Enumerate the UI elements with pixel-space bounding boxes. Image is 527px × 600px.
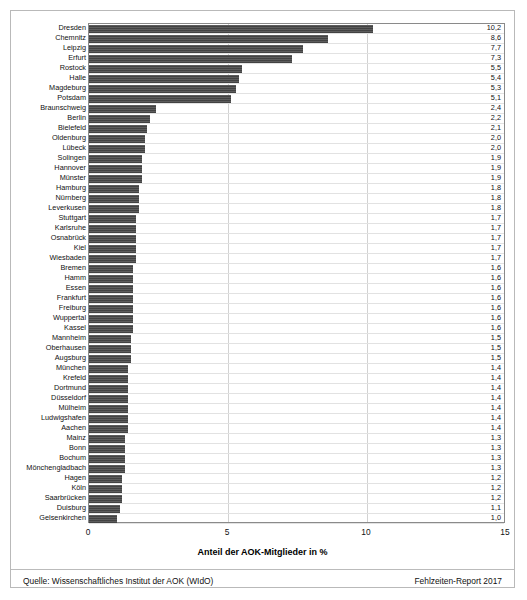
category-label: Kiel bbox=[74, 243, 86, 253]
value-label: 1,6 bbox=[491, 273, 501, 283]
category-label: Bochum bbox=[59, 453, 86, 463]
category-label: Düsseldorf bbox=[51, 393, 86, 403]
category-label: Chemnitz bbox=[55, 33, 86, 43]
bar-row: Augsburg1,5 bbox=[89, 354, 504, 364]
value-label: 1,6 bbox=[491, 323, 501, 333]
bar-row: Stuttgart1,7 bbox=[89, 214, 504, 224]
bar-row: Dresden10,2 bbox=[89, 24, 504, 34]
bar bbox=[89, 235, 136, 242]
bar bbox=[89, 305, 133, 312]
bar bbox=[89, 155, 142, 162]
bar bbox=[89, 515, 117, 522]
bar-rows: Dresden10,2Chemnitz8,6Leipzig7,7Erfurt7,… bbox=[89, 24, 504, 522]
bar bbox=[89, 45, 303, 52]
category-label: Braunschweig bbox=[40, 103, 86, 113]
value-label: 2,0 bbox=[491, 143, 501, 153]
bar-row: Oberhausen1,5 bbox=[89, 344, 504, 354]
bar-row: Köln1,2 bbox=[89, 484, 504, 494]
category-label: Oberhausen bbox=[46, 343, 86, 353]
bar bbox=[89, 215, 136, 222]
category-label: Solingen bbox=[58, 153, 86, 163]
category-label: Ludwigshafen bbox=[41, 413, 86, 423]
category-label: Frankfurt bbox=[57, 293, 86, 303]
bar-row: Karlsruhe1,7 bbox=[89, 224, 504, 234]
value-label: 8,6 bbox=[491, 33, 501, 43]
value-label: 10,2 bbox=[487, 23, 501, 33]
bar bbox=[89, 375, 128, 382]
value-label: 1,7 bbox=[491, 253, 501, 263]
category-label: Bonn bbox=[69, 443, 86, 453]
category-label: Gelsenkirchen bbox=[39, 513, 86, 523]
category-label: Oldenburg bbox=[52, 133, 86, 143]
bar bbox=[89, 315, 133, 322]
bar bbox=[89, 405, 128, 412]
category-label: Potsdam bbox=[57, 93, 86, 103]
bar bbox=[89, 415, 128, 422]
category-label: Magdeburg bbox=[49, 83, 86, 93]
bar-row: Aachen1,4 bbox=[89, 424, 504, 434]
category-label: Krefeld bbox=[63, 373, 86, 383]
category-label: Karlsruhe bbox=[55, 223, 86, 233]
bar bbox=[89, 295, 133, 302]
bar-row: Bonn1,3 bbox=[89, 444, 504, 454]
x-tick-label: 15 bbox=[500, 527, 509, 537]
bar-row: Hamm1,6 bbox=[89, 274, 504, 284]
bar-row: Saarbrücken1,2 bbox=[89, 494, 504, 504]
bar-row: Mönchengladbach1,3 bbox=[89, 464, 504, 474]
bar bbox=[89, 395, 128, 402]
value-label: 5,1 bbox=[491, 93, 501, 103]
x-axis: 051015 bbox=[88, 523, 505, 545]
source-note: Quelle: Wissenschaftliches Institut der … bbox=[23, 576, 213, 586]
bar bbox=[89, 485, 122, 492]
value-label: 1,4 bbox=[491, 393, 501, 403]
x-tick-label: 5 bbox=[225, 527, 230, 537]
value-label: 1,5 bbox=[491, 353, 501, 363]
bar bbox=[89, 85, 236, 92]
category-label: Bremen bbox=[60, 263, 86, 273]
bar-row: Freiburg1,6 bbox=[89, 304, 504, 314]
category-label: Mülheim bbox=[58, 403, 86, 413]
value-label: 1,3 bbox=[491, 443, 501, 453]
value-label: 1,7 bbox=[491, 213, 501, 223]
value-label: 1,9 bbox=[491, 173, 501, 183]
value-label: 1,2 bbox=[491, 493, 501, 503]
bar-row: Erfurt7,3 bbox=[89, 54, 504, 64]
bar bbox=[89, 325, 133, 332]
bar-row: Mainz1,3 bbox=[89, 434, 504, 444]
category-label: Hannover bbox=[54, 163, 86, 173]
bar-row: Leverkusen1,8 bbox=[89, 204, 504, 214]
category-label: Aachen bbox=[61, 423, 86, 433]
x-axis-title: Anteil der AOK-Mitglieder in % bbox=[11, 547, 514, 557]
bar-row: Dortmund1,4 bbox=[89, 384, 504, 394]
value-label: 2,4 bbox=[491, 103, 501, 113]
value-label: 1,3 bbox=[491, 433, 501, 443]
category-label: Wuppertal bbox=[53, 313, 86, 323]
bar-row: Oldenburg2,0 bbox=[89, 134, 504, 144]
bar-row: Berlin2,2 bbox=[89, 114, 504, 124]
category-label: Münster bbox=[60, 173, 86, 183]
bar-row: Krefeld1,4 bbox=[89, 374, 504, 384]
bar bbox=[89, 165, 142, 172]
bar-row: Bremen1,6 bbox=[89, 264, 504, 274]
category-label: Augsburg bbox=[55, 353, 86, 363]
bar-row: Osnabrück1,7 bbox=[89, 234, 504, 244]
bar-row: München1,4 bbox=[89, 364, 504, 374]
bar-row: Frankfurt1,6 bbox=[89, 294, 504, 304]
bar-row: Potsdam5,1 bbox=[89, 94, 504, 104]
value-label: 1,6 bbox=[491, 293, 501, 303]
category-label: Erfurt bbox=[68, 53, 86, 63]
bar bbox=[89, 495, 122, 502]
category-label: Hagen bbox=[64, 473, 86, 483]
bar bbox=[89, 145, 145, 152]
bar-row: Chemnitz8,6 bbox=[89, 34, 504, 44]
value-label: 1,0 bbox=[491, 513, 501, 523]
value-label: 1,6 bbox=[491, 283, 501, 293]
bar-row: Bielefeld2,1 bbox=[89, 124, 504, 134]
bar-row: Münster1,9 bbox=[89, 174, 504, 184]
bar-row: Bochum1,3 bbox=[89, 454, 504, 464]
bar bbox=[89, 425, 128, 432]
bar bbox=[89, 275, 133, 282]
value-label: 1,4 bbox=[491, 363, 501, 373]
bar bbox=[89, 385, 128, 392]
report-note: Fehlzeiten-Report 2017 bbox=[414, 576, 502, 586]
